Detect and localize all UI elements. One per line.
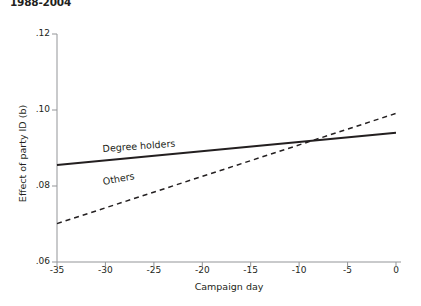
chart-figure: 1988-2004 Effect of party ID (b) Campaig…	[0, 0, 421, 306]
plot-area	[0, 0, 421, 306]
series-line-others	[57, 113, 396, 223]
